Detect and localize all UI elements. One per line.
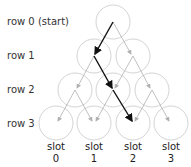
arrow-icon (113, 22, 131, 54)
arrow-icon (135, 90, 152, 121)
slot-number-0: 0 (53, 153, 59, 164)
arrow-icon (75, 90, 92, 121)
row-label-3: row 3 (7, 118, 35, 129)
slot-label-3: slot (162, 141, 180, 152)
path-arrow-icon (95, 22, 113, 54)
node-row3-3 (154, 106, 188, 140)
arrow-icon (115, 56, 133, 88)
galton-board-diagram: row 0 (start) row 1 row 2 row 3 slot 0 s… (0, 0, 191, 167)
arrow-icon (96, 90, 113, 121)
arrow-icon (58, 90, 75, 121)
slot-label-2: slot (124, 141, 142, 152)
row-label-2: row 2 (7, 84, 35, 95)
node-row3-1 (77, 106, 111, 140)
arrow-icon (133, 56, 150, 88)
slot-label-1: slot (85, 141, 103, 152)
row-label-0: row 0 (start) (7, 16, 69, 27)
possible-paths (58, 22, 169, 121)
arrow-icon (152, 90, 169, 121)
row-label-1: row 1 (7, 50, 35, 61)
arrow-icon (77, 56, 94, 88)
slot-label-0: slot (47, 141, 65, 152)
path-arrow-icon (94, 56, 112, 88)
node-row3-2 (116, 106, 150, 140)
slot-number-1: 1 (91, 153, 97, 164)
slot-number-2: 2 (130, 153, 136, 164)
node-row3-0 (39, 106, 73, 140)
slot-number-3: 3 (168, 153, 174, 164)
